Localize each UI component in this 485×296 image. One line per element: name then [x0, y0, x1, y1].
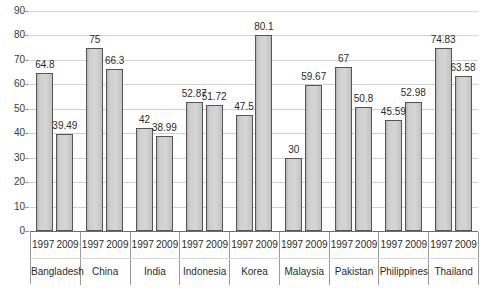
x-axis-year-label: 2009	[405, 240, 427, 250]
x-axis-country-label: India	[131, 267, 180, 277]
axis-label-table: 1997200919972009199720091997200919972009…	[30, 232, 478, 284]
x-axis-year-label: 2009	[106, 240, 128, 250]
bar-india-2009	[156, 136, 173, 231]
bar-value-bangladesh-1997: 64.8	[25, 60, 65, 70]
bar-indonesia-2009	[206, 105, 223, 231]
y-axis-tick-0: 0	[0, 226, 25, 236]
year-group-china: 19972009	[81, 232, 131, 258]
bar-india-1997	[136, 128, 153, 231]
y-axis-tick-60: 60	[0, 79, 25, 89]
bar-philippines-1997	[385, 120, 402, 231]
x-axis-year-label: 2009	[305, 240, 327, 250]
x-axis-country-pakistan: Pakistan	[330, 259, 380, 285]
bar-value-pakistan-1997: 67	[324, 54, 364, 64]
x-axis-country-label: Indonesia	[180, 267, 229, 277]
year-group-indonesia: 19972009	[180, 232, 230, 258]
gridline-90	[30, 11, 478, 12]
x-axis-year-label: 1997	[82, 240, 104, 250]
bar-china-1997	[86, 48, 103, 231]
bar-malaysia-2009	[305, 85, 322, 231]
y-axis-tickmark	[24, 182, 29, 183]
x-axis-year-label: 2009	[56, 240, 78, 250]
year-group-pakistan: 19972009	[330, 232, 380, 258]
bar-malaysia-1997	[285, 158, 302, 231]
y-axis-tickmark	[24, 158, 29, 159]
bar-value-indonesia-2009: 51.72	[194, 92, 234, 102]
x-axis-country-indonesia: Indonesia	[180, 259, 230, 285]
y-axis-tick-90: 90	[0, 6, 25, 16]
bar-chart: 1997200919972009199720091997200919972009…	[0, 0, 485, 296]
bar-value-bangladesh-2009: 39.49	[45, 121, 85, 131]
x-axis-country-label: China	[81, 267, 130, 277]
x-axis-year-label: 1997	[231, 240, 253, 250]
x-axis-country-korea: Korea	[230, 259, 280, 285]
x-axis-country-label: Thailand	[429, 267, 478, 277]
bar-korea-1997	[236, 115, 253, 231]
y-axis-tick-30: 30	[0, 153, 25, 163]
x-axis-country-bangladesh: Bangladesh	[31, 259, 81, 285]
x-axis-country-china: China	[81, 259, 131, 285]
x-axis-country-label: Malaysia	[280, 267, 329, 277]
bar-value-china-2009: 66.3	[95, 56, 135, 66]
bar-indonesia-1997	[186, 102, 203, 231]
bar-value-philippines-2009: 52.98	[393, 88, 433, 98]
bar-value-korea-1997: 47.5	[224, 102, 264, 112]
y-axis-tick-50: 50	[0, 104, 25, 114]
x-axis-year-label: 2009	[256, 240, 278, 250]
bar-thailand-2009	[455, 76, 472, 231]
x-axis-year-label: 1997	[381, 240, 403, 250]
y-axis-tick-40: 40	[0, 128, 25, 138]
bar-value-china-1997: 75	[75, 35, 115, 45]
x-axis-year-label: 2009	[206, 240, 228, 250]
y-axis-tickmark	[24, 207, 29, 208]
country-label-row: BangladeshChinaIndiaIndonesiaKoreaMalays…	[31, 258, 479, 285]
bar-value-thailand-1997: 74.83	[423, 35, 463, 45]
year-group-philippines: 19972009	[379, 232, 429, 258]
bar-value-malaysia-2009: 59.67	[294, 72, 334, 82]
x-axis-year-label: 2009	[455, 240, 477, 250]
y-axis-tickmark	[24, 231, 29, 232]
x-axis-country-malaysia: Malaysia	[280, 259, 330, 285]
bar-value-india-2009: 38.99	[144, 123, 184, 133]
x-axis-year-label: 1997	[331, 240, 353, 250]
year-group-malaysia: 19972009	[280, 232, 330, 258]
x-axis-year-label: 1997	[430, 240, 452, 250]
y-axis-tick-10: 10	[0, 202, 25, 212]
year-group-india: 19972009	[131, 232, 181, 258]
bar-china-2009	[106, 69, 123, 231]
y-axis-tick-20: 20	[0, 177, 25, 187]
x-axis-year-label: 2009	[355, 240, 377, 250]
bar-value-korea-2009: 80.1	[244, 22, 284, 32]
x-axis-year-label: 1997	[181, 240, 203, 250]
bar-pakistan-2009	[355, 107, 372, 231]
x-axis-country-india: India	[131, 259, 181, 285]
year-group-bangladesh: 19972009	[31, 232, 81, 258]
bar-bangladesh-2009	[56, 134, 73, 231]
year-label-row: 1997200919972009199720091997200919972009…	[31, 232, 479, 258]
x-axis-country-label: Bangladesh	[31, 267, 80, 277]
x-axis-country-label: Korea	[230, 267, 279, 277]
x-axis-year-label: 1997	[281, 240, 303, 250]
bar-value-pakistan-2009: 50.8	[344, 94, 384, 104]
x-axis-country-philippines: Philippines	[379, 259, 429, 285]
y-axis-tickmark	[24, 133, 29, 134]
bar-value-philippines-1997: 45.59	[373, 107, 413, 117]
bar-pakistan-1997	[335, 67, 352, 231]
bar-philippines-2009	[405, 102, 422, 232]
y-axis-tickmark	[24, 35, 29, 36]
bar-value-malaysia-1997: 30	[274, 145, 314, 155]
y-axis-tick-70: 70	[0, 55, 25, 65]
y-axis-tickmark	[24, 109, 29, 110]
y-axis-tick-80: 80	[0, 30, 25, 40]
y-axis-tickmark	[24, 84, 29, 85]
x-axis-year-label: 1997	[32, 240, 54, 250]
x-axis-country-label: Pakistan	[330, 267, 379, 277]
y-axis-tickmark	[24, 11, 29, 12]
year-group-thailand: 19972009	[429, 232, 479, 258]
x-axis-country-thailand: Thailand	[429, 259, 479, 285]
year-group-korea: 19972009	[230, 232, 280, 258]
x-axis-country-label: Philippines	[379, 267, 428, 277]
bar-bangladesh-1997	[36, 73, 53, 231]
bar-thailand-1997	[435, 48, 452, 231]
bar-korea-2009	[255, 35, 272, 231]
